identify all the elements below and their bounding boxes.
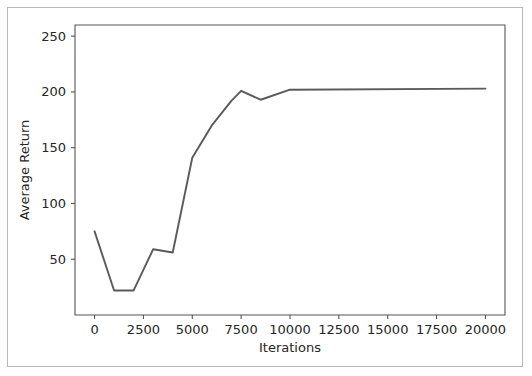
x-tick-label: 2500 [127, 322, 160, 337]
x-tick-label: 5000 [176, 322, 209, 337]
y-axis-tick-labels: 50100150200250 [41, 29, 66, 267]
x-axis-tick-labels: 02500500075001000012500150001750020000 [90, 322, 506, 337]
y-tick-label: 150 [41, 140, 66, 155]
x-axis-label: Iterations [259, 340, 321, 355]
series-line-average-return [95, 89, 486, 291]
y-tick-label: 50 [49, 252, 66, 267]
y-axis-ticks [71, 36, 75, 259]
x-tick-label: 15000 [367, 322, 408, 337]
x-axis-ticks [95, 315, 486, 319]
x-tick-label: 10000 [269, 322, 310, 337]
line-chart-plot: 02500500075001000012500150001750020000 5… [0, 0, 532, 376]
data-series-group [95, 89, 486, 291]
x-tick-label: 0 [90, 322, 98, 337]
x-tick-label: 17500 [416, 322, 457, 337]
y-tick-label: 100 [41, 196, 66, 211]
y-tick-label: 200 [41, 84, 66, 99]
chart-figure: 02500500075001000012500150001750020000 5… [0, 0, 532, 376]
x-tick-label: 7500 [225, 322, 258, 337]
y-axis-label: Average Return [17, 120, 32, 221]
x-tick-label: 20000 [465, 322, 506, 337]
axes-spines [75, 25, 505, 315]
x-tick-label: 12500 [318, 322, 359, 337]
y-tick-label: 250 [41, 29, 66, 44]
